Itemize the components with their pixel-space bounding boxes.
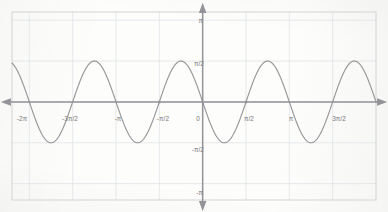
xtick-label-neg-pi: -π <box>115 116 122 122</box>
xtick-label-pi-2: π/2 <box>244 116 254 122</box>
xtick-label-neg-pi-2: -π/2 <box>157 116 169 122</box>
trigonometric-graph <box>0 0 388 212</box>
ytick-label-neg-pi-2: -π/2 <box>192 147 204 153</box>
xtick-label-3pi-2: 3π/2 <box>332 116 346 122</box>
marked-point-0 <box>158 100 161 103</box>
xtick-label-pi: π <box>289 116 294 122</box>
y-axis-arrow-top <box>199 3 206 13</box>
marked-point-1 <box>244 100 247 103</box>
xtick-label-neg-3pi-2: -3π/2 <box>62 116 78 122</box>
x-axis-arrow-left <box>1 98 11 105</box>
ytick-label-pi-2: π/2 <box>194 61 204 67</box>
graph-screenshot: -2π -3π/2 -π -π/2 0 π/2 π 3π/2 π π/2 -π/… <box>0 0 388 212</box>
figure-border <box>12 12 376 200</box>
ytick-label-pi: π <box>198 18 203 24</box>
xtick-label-neg-2pi: -2π <box>17 116 27 122</box>
y-axis-arrow-bottom <box>199 201 206 211</box>
xtick-label-zero: 0 <box>196 116 200 122</box>
ytick-label-neg-pi: -π <box>196 190 203 196</box>
gridlines <box>12 12 376 200</box>
x-axis-arrow-right <box>377 98 387 105</box>
